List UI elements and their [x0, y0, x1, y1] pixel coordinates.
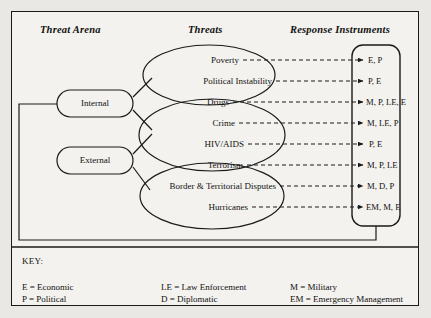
threat-label-crime: Crime [145, 118, 235, 128]
column-header-threat-arena: Threat Arena [40, 24, 101, 35]
key-entry-political: P = Political [22, 294, 66, 304]
key-entry-economic: E = Economic [22, 282, 74, 292]
response-label-hiv-aids: P, E [369, 139, 382, 149]
arena-label-internal: Internal [57, 98, 133, 108]
threat-response-diagram: Threat Arena Threats Response Instrument… [0, 0, 431, 318]
key-entry-diplomatic: D = Diplomatic [161, 294, 218, 304]
key-entry-law-enforcement: LE = Law Enforcement [161, 282, 246, 292]
response-label-political-instability: P, E [368, 76, 381, 86]
response-label-terrorism: M, P, LE [367, 160, 398, 170]
key-title: KEY: [22, 256, 43, 266]
column-header-threats: Threats [188, 24, 223, 35]
threat-label-drugs: Drugs [145, 97, 229, 107]
threat-label-hiv-aids: HIV/AIDS [145, 139, 244, 149]
threat-label-border-territorial-disputes: Border & Territorial Disputes [141, 181, 276, 191]
threat-label-terrorism: Terrorism [145, 160, 243, 170]
response-label-poverty: E, P [368, 55, 382, 65]
column-header-response-instruments: Response Instruments [290, 24, 390, 35]
key-entry-military: M = Military [290, 282, 337, 292]
threat-label-hurricanes: Hurricanes [145, 202, 248, 212]
key-entry-emergency-management: EM = Emergency Management [290, 294, 403, 304]
response-label-border-territorial-disputes: M, D, P [367, 181, 394, 191]
response-label-drugs: M, P, LE, E [366, 97, 406, 107]
threat-label-political-instability: Political Instability [148, 76, 272, 86]
threat-label-poverty: Poverty [143, 55, 239, 65]
response-label-hurricanes: EM, M, E [366, 202, 400, 212]
arena-label-external: External [57, 155, 133, 165]
response-label-crime: M, LE, P [367, 118, 399, 128]
